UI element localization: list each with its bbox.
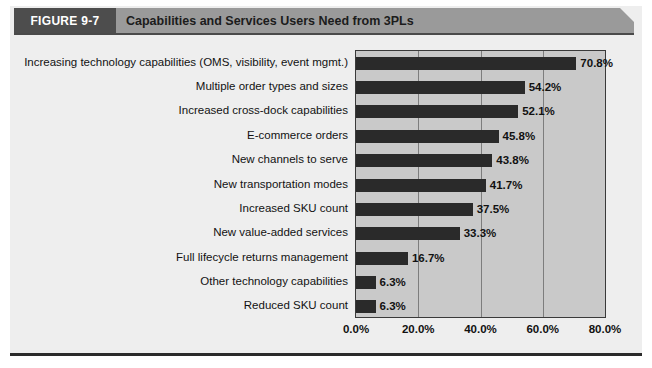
bar-value-label: 6.3% (380, 300, 406, 313)
category-label: Increased SKU count (239, 202, 348, 215)
x-tick-label: 40.0% (464, 322, 497, 336)
category-label: New value-added services (213, 226, 348, 239)
category-label: Increasing technology capabilities (OMS,… (24, 56, 348, 69)
bar (356, 130, 499, 143)
bar-value-label: 6.3% (380, 276, 406, 289)
category-label: Increased cross-dock capabilities (179, 104, 348, 117)
bar (356, 179, 486, 192)
figure-root: FIGURE 9-7 Capabilities and Services Use… (0, 0, 652, 368)
category-label: New transportation modes (214, 178, 348, 191)
category-label: Full lifecycle returns management (176, 251, 348, 264)
category-label: New channels to serve (232, 153, 348, 166)
bar (356, 252, 408, 265)
bar-value-label: 70.8% (580, 57, 613, 70)
figure-number-tag: FIGURE 9-7 (14, 8, 116, 33)
x-tick-label: 60.0% (526, 322, 559, 336)
figure-title: Capabilities and Services Users Need fro… (126, 8, 414, 33)
category-label: Reduced SKU count (244, 299, 348, 312)
bar-value-label: 41.7% (490, 179, 523, 192)
bar (356, 227, 460, 240)
category-axis-labels: Increasing technology capabilities (OMS,… (14, 50, 352, 318)
bar (356, 203, 473, 216)
x-tick-label: 20.0% (402, 322, 435, 336)
bar-value-label: 54.2% (529, 81, 562, 94)
bar (356, 81, 525, 94)
category-label: Other technology capabilities (200, 275, 348, 288)
category-label: Multiple order types and sizes (196, 80, 348, 93)
category-label: E-commerce orders (247, 129, 348, 142)
bar (356, 154, 492, 167)
bar (356, 300, 376, 313)
bar-value-label: 52.1% (522, 105, 555, 118)
x-tick-label: 80.0% (589, 322, 622, 336)
bar (356, 57, 576, 70)
bar (356, 105, 518, 118)
panel-bottom-rule (10, 353, 642, 356)
bar-value-label: 16.7% (412, 252, 445, 265)
bar-value-label: 45.8% (503, 130, 536, 143)
bar-value-label: 43.8% (496, 154, 529, 167)
bar (356, 276, 376, 289)
x-axis-tick-labels: 0.0%20.0%40.0%60.0%80.0% (355, 322, 606, 338)
figure-banner-shadow (14, 33, 634, 35)
plot-area: 70.8%54.2%52.1%45.8%43.8%41.7%37.5%33.3%… (355, 50, 606, 318)
bar-value-label: 33.3% (464, 227, 497, 240)
bar-chart: Increasing technology capabilities (OMS,… (14, 40, 638, 350)
x-tick-label: 0.0% (343, 322, 369, 336)
bar-value-label: 37.5% (477, 203, 510, 216)
